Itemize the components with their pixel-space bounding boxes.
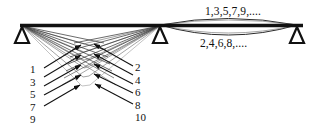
support-right-triangle (290, 27, 304, 43)
influence-line-figure (0, 0, 320, 128)
odd-number-label-7: 7 (30, 102, 36, 113)
even-leader-arrows (94, 44, 133, 104)
leader-arrow-8 (94, 74, 133, 93)
fan-line-l5 (22, 26, 112, 71)
leader-arrow-5 (44, 65, 81, 86)
leader-arrow-10 (95, 84, 133, 104)
leader-arrow-7 (44, 75, 81, 95)
fan-line-l2 (22, 26, 106, 50)
odd-leader-arrows (44, 45, 81, 106)
diagram-canvas: 1,3,5,7,9,.... 2,4,6,8,.... 1 3 5 7 9 2 … (0, 0, 320, 128)
odd-number-label-3: 3 (30, 77, 36, 88)
even-number-label-10: 10 (135, 112, 146, 123)
odd-series-annotation: 1,3,5,7,9,.... (205, 6, 261, 18)
even-number-label-4: 4 (135, 75, 141, 86)
leader-arrow-3 (44, 55, 81, 77)
odd-number-label-1: 1 (30, 64, 36, 75)
even-number-label-8: 8 (135, 100, 141, 111)
support-right (290, 27, 304, 43)
even-number-label-2: 2 (135, 62, 141, 73)
odd-number-label-stack: 1 3 5 7 9 (30, 64, 36, 125)
even-series-annotation: 2,4,6,8,.... (200, 38, 247, 50)
leader-arrow-9 (44, 85, 80, 106)
even-number-label-stack: 2 4 6 8 10 (135, 62, 146, 123)
odd-number-label-5: 5 (30, 89, 36, 100)
odd-number-label-9: 9 (30, 114, 36, 125)
left-support-fan (22, 26, 116, 85)
fan-line-l7 (22, 26, 116, 85)
leader-arrow-4 (94, 54, 133, 75)
even-number-label-6: 6 (135, 87, 141, 98)
leader-arrow-6 (94, 64, 133, 84)
